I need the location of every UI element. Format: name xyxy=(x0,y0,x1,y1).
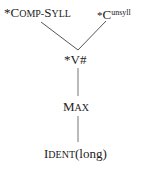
smallcaps-text: OMP- xyxy=(19,8,44,19)
smallcaps-text: DENT xyxy=(48,149,75,160)
smallcaps-text: AX xyxy=(75,102,89,113)
edge-c-unsyll-to-v-hash xyxy=(78,21,106,50)
cap-letter: C xyxy=(11,5,20,20)
superscript: unsyll xyxy=(111,8,131,17)
edge-comp-syll-to-v-hash xyxy=(41,22,78,50)
base-letter: C xyxy=(103,7,112,22)
node-v-hash: *V# xyxy=(64,53,86,67)
argument-text: (long) xyxy=(75,146,107,161)
smallcaps-text: YLL xyxy=(51,8,70,19)
node-c-unsyll: *Cunsyll xyxy=(97,6,131,22)
node-max: MAX xyxy=(63,100,89,115)
node-comp-syll: *COMP-SYLL xyxy=(4,6,71,21)
node-ident-long: IDENT(long) xyxy=(44,147,107,162)
cap-letter: M xyxy=(63,99,75,114)
